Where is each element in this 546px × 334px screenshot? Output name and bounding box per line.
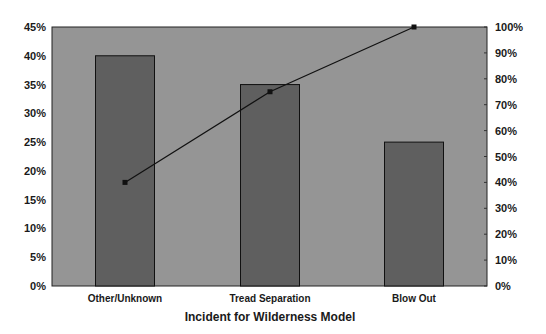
right-tick-label: 10% [495,254,517,266]
left-tick-label: 35% [24,79,46,91]
bar [96,56,155,286]
category-label: Other/Unknown [88,293,162,304]
right-tick-label: 50% [495,151,517,163]
x-axis-categories: Other/UnknownTread SeparationBlow Out [88,293,437,304]
right-tick-label: 40% [495,176,517,188]
bar [241,85,300,286]
right-tick-label: 60% [495,125,517,137]
right-axis-ticks: 0%10%20%30%40%50%60%70%80%90%100% [484,21,523,292]
right-tick-label: 90% [495,47,517,59]
category-label: Blow Out [392,293,437,304]
bar [385,142,444,286]
left-tick-label: 30% [24,107,46,119]
category-label: Tread Separation [229,293,310,304]
right-tick-label: 30% [495,202,517,214]
right-tick-label: 0% [495,280,511,292]
x-axis-title: Incident for Wilderness Model [185,310,356,324]
right-tick-label: 70% [495,99,517,111]
left-tick-label: 25% [24,136,46,148]
line-marker [412,25,417,30]
pareto-chart: 0%5%10%15%20%25%30%35%40%45% 0%10%20%30%… [0,0,546,334]
left-axis-ticks: 0%5%10%15%20%25%30%35%40%45% [24,21,46,292]
left-tick-label: 15% [24,194,46,206]
right-tick-label: 100% [495,21,523,33]
left-tick-label: 40% [24,50,46,62]
left-tick-label: 45% [24,21,46,33]
line-marker [123,180,128,185]
left-tick-label: 10% [24,222,46,234]
left-tick-label: 5% [30,251,46,263]
line-marker [268,89,273,94]
left-tick-label: 0% [30,280,46,292]
left-tick-label: 20% [24,165,46,177]
right-tick-label: 20% [495,228,517,240]
right-tick-label: 80% [495,73,517,85]
